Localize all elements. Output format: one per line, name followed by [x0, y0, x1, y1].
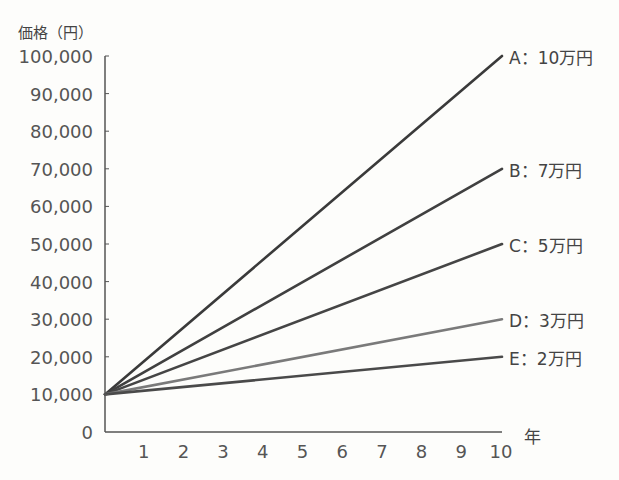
y-tick-label: 100,000 — [19, 46, 93, 67]
x-axis-title: 年 — [524, 423, 541, 448]
x-tick-label: 8 — [416, 441, 427, 462]
y-tick-label: 50,000 — [30, 234, 93, 255]
x-tick-label: 4 — [257, 441, 268, 462]
y-axis-title: 価格（円） — [18, 21, 93, 42]
x-tick-label: 6 — [336, 441, 347, 462]
series-line-0 — [105, 56, 502, 394]
x-tick-label: 5 — [297, 441, 308, 462]
series-line-3 — [105, 319, 502, 394]
y-tick-label: 70,000 — [30, 158, 93, 179]
series-line-4 — [105, 357, 502, 395]
x-tick-label: 2 — [178, 441, 189, 462]
y-tick-label: 20,000 — [30, 346, 93, 367]
y-tick-label: 80,000 — [30, 121, 93, 142]
series-line-1 — [105, 169, 502, 395]
series-label: A：10万円 — [509, 44, 593, 69]
x-tick-label: 1 — [138, 441, 149, 462]
x-tick-label: 3 — [217, 441, 228, 462]
x-tick-label: 10 — [490, 441, 513, 462]
series-lines — [105, 56, 502, 394]
y-tick-label: 40,000 — [30, 271, 93, 292]
series-label: E：2万円 — [509, 344, 582, 369]
x-tick-label: 7 — [376, 441, 387, 462]
series-label: C：5万円 — [509, 232, 583, 257]
y-tick-label: 30,000 — [30, 309, 93, 330]
series-label: B：7万円 — [509, 156, 582, 181]
y-tick-label: 10,000 — [30, 384, 93, 405]
y-tick-label: 90,000 — [30, 83, 93, 104]
series-line-2 — [105, 244, 502, 394]
y-tick-label: 60,000 — [30, 196, 93, 217]
series-label: D：3万円 — [509, 307, 584, 332]
x-tick-label: 9 — [456, 441, 467, 462]
y-tick-label: 0 — [82, 422, 93, 443]
